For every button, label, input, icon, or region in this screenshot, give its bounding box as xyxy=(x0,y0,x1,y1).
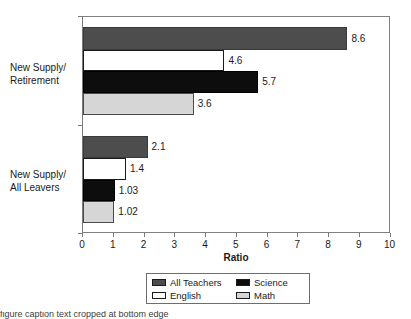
bar-value-label: 5.7 xyxy=(262,77,276,87)
x-axis-tick xyxy=(359,233,360,237)
category-label-retirement: New Supply/ Retirement xyxy=(10,62,88,87)
bar-all-teachers-group0 xyxy=(83,27,347,50)
x-axis-tick xyxy=(82,233,83,237)
legend-label: Math xyxy=(254,291,275,301)
x-axis-tick-label: 2 xyxy=(141,239,147,250)
legend-item-science[interactable]: Science xyxy=(236,278,288,288)
x-axis-tick xyxy=(113,233,114,237)
y-axis-tick xyxy=(78,16,82,17)
legend-swatch-icon xyxy=(152,279,166,286)
bar-english-group1 xyxy=(83,158,126,180)
x-axis-tick-label: 1 xyxy=(110,239,116,250)
category-label-line2: All Leavers xyxy=(10,182,88,195)
x-axis-tick-label: 6 xyxy=(264,239,270,250)
legend-label: All Teachers xyxy=(170,278,222,288)
figure-caption: figure caption text cropped at bottom ed… xyxy=(0,311,411,319)
x-axis-tick xyxy=(297,233,298,237)
legend-item-all-teachers[interactable]: All Teachers xyxy=(152,278,236,288)
legend-item-math[interactable]: Math xyxy=(236,291,275,301)
bar-all-teachers-group1 xyxy=(83,136,148,158)
legend-item-english[interactable]: English xyxy=(152,291,236,301)
figure-caption-text: figure caption text cropped at bottom ed… xyxy=(0,311,411,319)
bar-value-label: 3.6 xyxy=(198,99,212,109)
x-axis-tick xyxy=(328,233,329,237)
legend-row: All Teachers Science xyxy=(152,276,305,289)
bar-value-label: 1.03 xyxy=(119,186,138,196)
y-axis-tick xyxy=(78,125,82,126)
x-axis-tick-label: 8 xyxy=(325,239,331,250)
x-axis-tick-label: 10 xyxy=(384,239,395,250)
bar-value-label: 1.4 xyxy=(130,164,144,174)
x-axis-tick xyxy=(174,233,175,237)
bar-math-group0 xyxy=(83,93,194,115)
bar-english-group0 xyxy=(83,50,224,71)
bar-value-label: 8.6 xyxy=(351,34,365,44)
x-axis-tick-label: 4 xyxy=(202,239,208,250)
x-axis-tick-label: 7 xyxy=(294,239,300,250)
bar-science-group1 xyxy=(83,180,115,201)
x-axis-tick xyxy=(267,233,268,237)
legend: All Teachers Science English Math xyxy=(146,273,310,304)
bar-math-group1 xyxy=(83,201,114,223)
category-label-all-leavers: New Supply/ All Leavers xyxy=(10,169,88,194)
x-axis-tick xyxy=(390,233,391,237)
bar-chart: New Supply/ Retirement New Supply/ All L… xyxy=(0,0,411,319)
legend-label: Science xyxy=(254,278,288,288)
x-axis-tick xyxy=(205,233,206,237)
category-label-line1: New Supply/ xyxy=(10,169,88,182)
x-axis-tick-label: 0 xyxy=(79,239,85,250)
category-label-line2: Retirement xyxy=(10,75,88,88)
bar-value-label: 2.1 xyxy=(152,142,166,152)
bar-science-group0 xyxy=(83,71,258,93)
x-axis-tick-label: 3 xyxy=(171,239,177,250)
legend-swatch-icon xyxy=(236,292,250,299)
legend-row: English Math xyxy=(152,289,305,302)
legend-label: English xyxy=(170,291,201,301)
x-axis-tick xyxy=(236,233,237,237)
legend-swatch-icon xyxy=(152,292,166,299)
bar-value-label: 1.02 xyxy=(118,207,137,217)
bar-value-label: 4.6 xyxy=(228,56,242,66)
x-axis-tick xyxy=(144,233,145,237)
category-label-line1: New Supply/ xyxy=(10,62,88,75)
x-axis-title: Ratio xyxy=(82,252,390,263)
x-axis-tick-label: 5 xyxy=(233,239,239,250)
legend-swatch-icon xyxy=(236,279,250,286)
x-axis-tick-label: 9 xyxy=(356,239,362,250)
